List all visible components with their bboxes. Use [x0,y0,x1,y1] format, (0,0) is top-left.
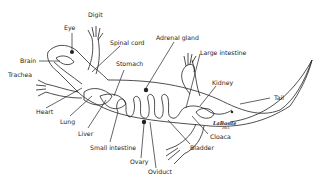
label-spinal-cord: Spinal cord [110,39,145,47]
diagram-canvas: Digit Eye Spinal cord Adrenal gland Larg… [0,0,318,182]
liver-shape [100,94,126,109]
label-ovary: Ovary [130,158,149,166]
torso-outline-top [108,60,312,113]
label-tail: Tail [273,94,284,101]
label-eye: Eye [64,24,76,32]
brain-outline [56,56,74,65]
label-digit: Digit [88,11,103,19]
front-foot-upper [88,26,103,40]
leader-lung [70,96,92,116]
label-cloaca: Cloaca [210,133,231,140]
eye-dot [70,50,74,54]
label-trachea: Trachea [7,71,32,78]
label-heart: Heart [36,108,54,115]
label-adrenal-gland: Adrenal gland [156,34,199,42]
bladder-shape [196,108,214,118]
small-intestine-shape [117,94,184,118]
lizard-anatomy-diagram: Digit Eye Spinal cord Adrenal gland Larg… [0,0,318,182]
hind-foot-lower [166,146,184,164]
lung-shape [84,89,112,105]
ovary-dot [142,120,146,124]
mouth-line [54,62,82,84]
leader-oviduct [150,122,156,168]
label-large-intestine: Large intestine [200,49,247,57]
label-liver: Liver [78,130,94,137]
adrenal-gland-dot [144,88,148,92]
label-small-intestine: Small intestine [90,144,136,151]
label-lung: Lung [60,118,75,126]
leader-tail [240,98,270,104]
signature-year: 2011 [222,126,230,130]
artist-signature: LaBonte 2011 [212,120,236,130]
front-foot-lower [36,80,46,96]
large-intestine-shape [184,106,232,114]
label-stomach: Stomach [116,60,143,67]
leader-spinal-cord [92,46,120,72]
leader-small-intestine [110,112,118,142]
label-oviduct: Oviduct [148,168,173,175]
lizard-drawing [36,26,312,164]
front-leg-upper [88,38,99,74]
leader-adrenal [146,42,174,88]
label-kidney: Kidney [212,79,233,87]
leader-stomach [114,70,124,96]
cloaca-dot [231,111,233,113]
label-bladder: Bladder [190,144,214,151]
label-brain: Brain [20,57,36,64]
leader-cloaca [192,116,208,134]
leader-ovary [141,124,144,158]
leader-kidney [200,86,216,106]
